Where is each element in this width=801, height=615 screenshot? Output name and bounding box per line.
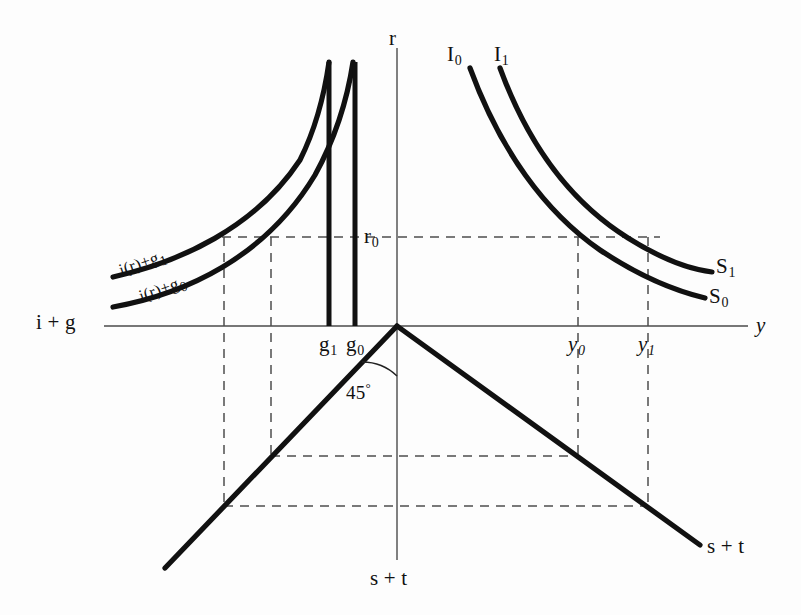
tick-label-g0-base: g (346, 332, 357, 356)
angle-label-45-degrees: 45° (346, 381, 371, 402)
curve-label-S0: S0 (709, 286, 729, 310)
tick-label-y0-base: y (568, 332, 578, 356)
curve-label-S0-base: S (709, 284, 721, 308)
figure-canvas (0, 0, 801, 615)
tick-label-y0: y0 (568, 334, 585, 358)
tick-label-g0: g0 (346, 334, 364, 358)
tick-label-g1: g1 (319, 334, 337, 358)
tick-label-r0: r0 (364, 226, 379, 250)
curve-label-S0-subscript: 0 (721, 295, 729, 310)
tick-label-y1: y1 (638, 334, 655, 358)
tick-label-r0-subscript: 0 (371, 235, 379, 250)
angle-label-45-base: 45 (346, 382, 365, 403)
tick-label-y1-base: y (638, 332, 648, 356)
curve-label-S1: S1 (716, 256, 736, 280)
axis-label-r: r (389, 28, 396, 49)
axis-label-y: y (756, 315, 766, 336)
curve-I0-S0 (470, 68, 705, 298)
curve-label-I0-subscript: 0 (454, 53, 462, 68)
tick-label-y0-subscript: 0 (578, 343, 586, 358)
curve-investment-upper-g1 (113, 62, 329, 277)
curve-label-s-plus-t: s + t (707, 536, 744, 557)
curve-label-I0: I0 (447, 44, 462, 68)
figure-root: r y i + g s + t r0 g1 g0 y0 y1 i(r)+g1 i… (0, 0, 801, 615)
curve-label-S1-base: S (716, 254, 728, 278)
tick-label-y1-subscript: 1 (648, 343, 656, 358)
tick-label-g1-subscript: 1 (330, 343, 338, 358)
axis-label-i-plus-g: i + g (36, 312, 76, 333)
curve-label-I1: I1 (494, 44, 509, 68)
tick-label-g1-base: g (319, 332, 330, 356)
line-s-plus-t (397, 326, 700, 545)
angle-arc-45 (362, 362, 397, 376)
curve-label-I1-subscript: 1 (501, 53, 509, 68)
axis-label-s-plus-t-bottom: s + t (370, 568, 407, 589)
tick-label-g0-subscript: 0 (357, 343, 365, 358)
curve-I1-S1 (500, 68, 712, 272)
angle-label-45-degree-sign: ° (365, 380, 370, 395)
curve-label-S1-subscript: 1 (728, 265, 736, 280)
